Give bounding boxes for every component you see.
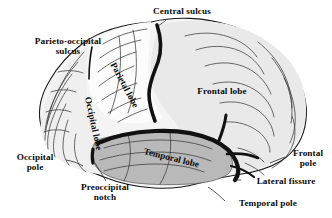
label-frontal-pole: Frontal pole [286, 148, 330, 169]
label-frontal-lobe: Frontal lobe [186, 86, 258, 96]
brain-anatomy-figure: Central sulcus Parieto-occipital sulcus … [0, 0, 332, 218]
preoccipital-notch-mark [92, 149, 93, 163]
label-parieto-occipital-sulcus: Parieto-occipital sulcus [22, 36, 114, 57]
label-lateral-fissure: Lateral fissure [242, 176, 330, 186]
label-occipital-pole: Occipital pole [4, 152, 66, 173]
label-central-sulcus: Central sulcus [145, 6, 219, 16]
label-preoccipital-notch: Preoccipital notch [62, 182, 148, 203]
leader-temporal-pole [208, 187, 225, 201]
label-temporal-pole: Temporal pole [226, 198, 310, 208]
